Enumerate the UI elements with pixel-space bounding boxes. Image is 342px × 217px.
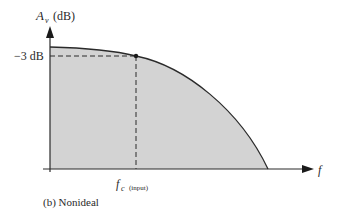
x-axis-arrow-icon	[302, 165, 314, 173]
cutoff-qualifier: (input)	[129, 184, 149, 192]
y-axis-arrow-icon	[46, 26, 54, 38]
frequency-response-diagram: A v (dB) −3 dB f f c (input) (b) Nonidea…	[0, 0, 342, 217]
caption: (b) Nonideal	[43, 196, 99, 209]
y-axis-label: A	[35, 8, 44, 23]
y-axis-subscript: v	[45, 16, 49, 25]
x-axis-label: f	[318, 163, 323, 177]
cutoff-point	[134, 54, 138, 58]
y-axis-unit: (dB)	[53, 9, 75, 23]
minus-3db-label: −3 dB	[14, 49, 44, 63]
cutoff-subscript: c	[121, 184, 125, 193]
response-area	[50, 47, 268, 169]
